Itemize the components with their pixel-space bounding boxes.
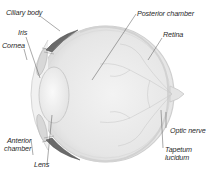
label-cornea: Cornea bbox=[2, 42, 25, 50]
label-anterior-chamber-line2: chamber bbox=[4, 145, 31, 153]
label-iris: Iris bbox=[18, 29, 27, 37]
label-ciliary-body: Ciliary body bbox=[6, 9, 42, 17]
label-lens: Lens bbox=[34, 161, 49, 169]
lens-shape bbox=[39, 67, 69, 123]
optic-nerve-shape bbox=[170, 86, 184, 102]
label-retina: Retina bbox=[163, 31, 183, 39]
label-optic-nerve: Optic nerve bbox=[170, 127, 206, 135]
label-tapetum-lucidum: Tapetum lucidum bbox=[165, 146, 192, 162]
label-anterior-chamber: Anterior chamber bbox=[4, 137, 31, 153]
label-tapetum-line2: lucidum bbox=[165, 154, 192, 162]
label-posterior-chamber: Posterior chamber bbox=[137, 10, 194, 18]
